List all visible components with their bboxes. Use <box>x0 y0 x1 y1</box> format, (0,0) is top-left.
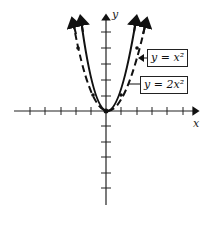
vertex-point <box>104 109 109 114</box>
y-axis-label: y <box>112 8 118 21</box>
curve-label-2x-squared: y = 2x² <box>140 76 188 94</box>
curve-y-equals-2x-squared <box>81 20 136 111</box>
coordinate-plane <box>0 0 210 225</box>
curve-label-x-squared: y = x² <box>147 49 188 67</box>
x-axis-label: x <box>193 117 199 130</box>
